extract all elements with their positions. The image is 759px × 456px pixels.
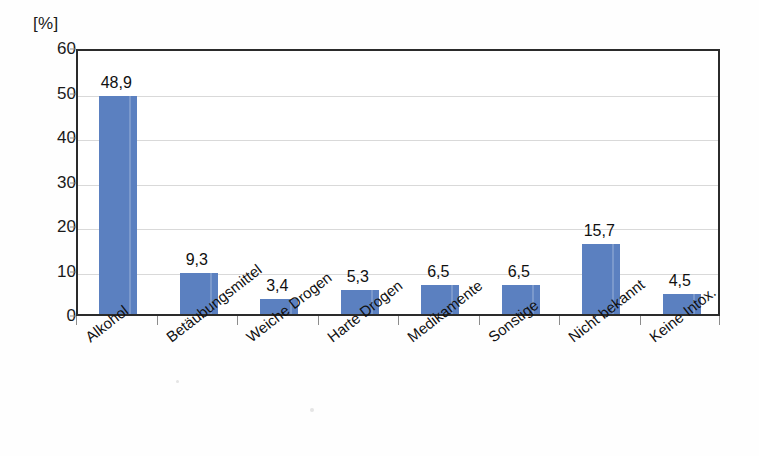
gridline — [78, 229, 718, 230]
gridline — [78, 185, 718, 186]
y-axis-unit-label: [%] — [33, 14, 58, 34]
y-axis: 0102030405060 — [30, 49, 76, 316]
x-axis-tick-mark — [479, 316, 480, 325]
plot-area — [76, 49, 720, 316]
scan-speck — [310, 408, 314, 412]
gridline — [78, 274, 718, 275]
x-axis-tick-mark — [719, 316, 720, 325]
x-axis-tick-mark — [640, 316, 641, 325]
gridline — [78, 96, 718, 97]
x-axis: AlkoholBetäubungsmittelWeiche DrogenHart… — [76, 316, 720, 456]
x-axis-tick-mark — [318, 316, 319, 325]
x-axis-tick-mark — [559, 316, 560, 325]
bar — [99, 96, 137, 314]
x-axis-tick-mark — [237, 316, 238, 325]
chart-screenshot: [%] 0102030405060 48,99,33,45,36,56,515,… — [0, 0, 759, 456]
gridline — [78, 140, 718, 141]
scan-speck — [176, 380, 179, 383]
bar-highlight — [129, 96, 131, 314]
x-axis-tick-mark — [76, 316, 77, 325]
x-axis-tick-mark — [157, 316, 158, 325]
x-axis-tick-mark — [398, 316, 399, 325]
